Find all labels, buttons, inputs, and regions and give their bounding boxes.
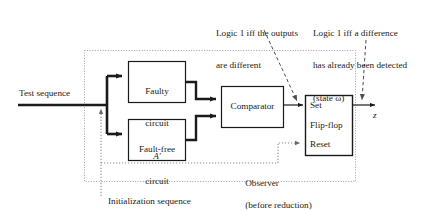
observer-caption-paren: (before reduction): [245, 200, 312, 210]
faulty-output-to-comparator: [185, 82, 216, 99]
fault-free-circuit-line2: circuit: [128, 176, 186, 187]
fault-free-circuit-line3: A: [128, 209, 186, 211]
comparator-label: Comparator: [221, 101, 284, 112]
flip-flop-note: Logic 1 iff a difference has already bee…: [313, 6, 407, 125]
flip-flop-note-line1: Logic 1 iff a difference: [313, 28, 407, 39]
comparator-note: Logic 1 iff the outputs are different: [216, 6, 298, 93]
initialization-sequence-label: Initialization sequence: [108, 196, 191, 207]
comparator-note-line1: Logic 1 iff the outputs: [216, 28, 298, 39]
fault-free-circuit-line1: Fault-free: [128, 144, 186, 155]
comparator-note-line2: are different: [216, 60, 298, 71]
flip-flop-note-line2: has already been detected: [313, 60, 407, 71]
flip-flop-reset-label: Reset: [310, 139, 330, 150]
flip-flop-name-label: Flip-flop: [310, 120, 343, 131]
flip-flop-set-label: Set: [310, 100, 322, 111]
flip-flop-note-line3: (state ω): [313, 93, 407, 104]
output-label: z: [373, 110, 377, 121]
test-sequence-label: Test sequence: [19, 88, 70, 99]
faulty-circuit-line1: Faulty: [128, 86, 186, 97]
observer-caption-main: Observer: [245, 178, 279, 188]
figure-canvas: Logic 1 iff the outputs are different Lo…: [0, 0, 439, 211]
fault-free-output-to-comparator: [185, 116, 216, 140]
observer-caption: Observer (before reduction): [236, 167, 312, 211]
